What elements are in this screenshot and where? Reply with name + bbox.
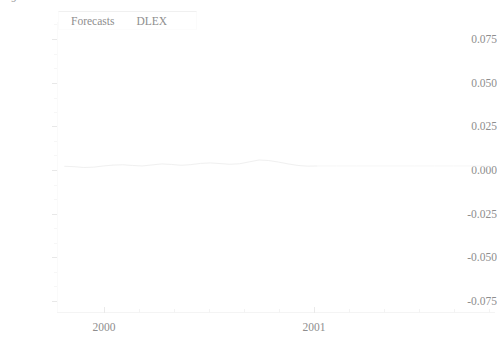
forecast-plot: 9 Forecasts DLEX 0.075 0.050 0.025 0.000…	[0, 0, 497, 346]
x-axis-label-2001: 2001	[279, 320, 349, 334]
series-plot-area	[57, 22, 495, 312]
corner-glyph: 9	[11, 0, 17, 3]
x-axis-label-2000: 2000	[69, 320, 139, 334]
x-axis-line	[57, 312, 495, 313]
series-line-dlex	[64, 160, 317, 168]
